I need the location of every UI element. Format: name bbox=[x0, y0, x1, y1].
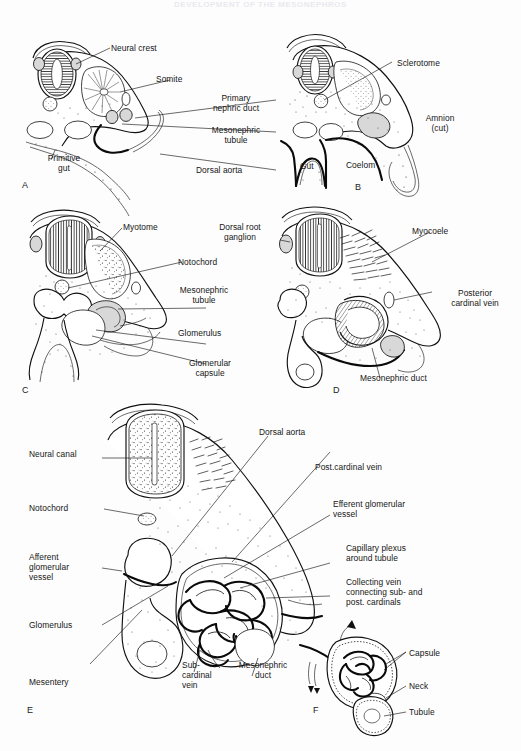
label-b-coelom: Coelom bbox=[346, 160, 375, 170]
panel-e-artwork bbox=[90, 404, 330, 678]
label-e-mesonephric-duct: Mesonephric duct bbox=[232, 660, 294, 680]
label-a-dorsal-aorta: Dorsal aorta bbox=[196, 165, 242, 175]
panel-letter-c: C bbox=[22, 385, 29, 395]
panel-letter-b: B bbox=[355, 182, 361, 192]
label-a-primitive-gut: Primitive gut bbox=[37, 153, 91, 173]
panel-letter-d: D bbox=[333, 385, 340, 395]
label-d-myocoele: Myocoele bbox=[412, 226, 448, 236]
label-e-post-cardinal-vein: Post.cardinal vein bbox=[315, 462, 382, 472]
label-c-notochord: Notochord bbox=[178, 257, 217, 267]
label-b-amnion-cut: Amnion (cut) bbox=[412, 113, 468, 133]
label-e-mesentery: Mesentery bbox=[29, 677, 69, 687]
label-f-capsule: Capsule bbox=[409, 648, 440, 658]
label-c-mesonephric-tubule: Mesonephric tubule bbox=[166, 285, 242, 305]
label-b-gut: Gut bbox=[300, 161, 314, 171]
label-d-dorsal-root-ganglion: Dorsal root ganglion bbox=[203, 222, 277, 242]
label-d-posterior-cardinal-vein: Posterior cardinal vein bbox=[436, 288, 514, 308]
figure-plate: DEVELOPMENT OF THE MESONEPHROS bbox=[0, 0, 521, 751]
panel-f-artwork bbox=[300, 620, 406, 736]
panel-letter-a: A bbox=[22, 180, 28, 190]
label-a-primary-nephric-duct: Primary nephric duct bbox=[196, 93, 276, 113]
label-e-glomerulus: Glomerulus bbox=[29, 620, 72, 630]
panel-letter-e: E bbox=[27, 705, 33, 715]
label-a-mesonephric-tubule: Mesonephric tubule bbox=[196, 125, 276, 145]
label-f-neck: Neck bbox=[409, 681, 428, 691]
label-d-mesonephric-duct: Mesonephric duct bbox=[360, 373, 427, 383]
label-e-efferent-glomerular-vessel: Efferent glomerular vessel bbox=[333, 499, 405, 519]
label-e-neural-canal: Neural canal bbox=[29, 449, 77, 459]
label-c-glomerular-capsule: Glomerular capsule bbox=[174, 358, 246, 378]
label-c-myotome: Myotome bbox=[123, 222, 158, 232]
label-f-tubule: Tubule bbox=[409, 707, 435, 717]
label-e-dorsal-aorta: Dorsal aorta bbox=[259, 427, 305, 437]
label-e-collecting-vein: Collecting vein connecting sub- and post… bbox=[346, 577, 422, 608]
label-a-somite: Somite bbox=[156, 74, 182, 84]
panel-letter-f: F bbox=[313, 705, 319, 715]
label-a-neural-crest: Neural crest bbox=[111, 43, 157, 53]
label-e-capillary-plexus: Capillary plexus around tubule bbox=[346, 543, 406, 563]
label-e-afferent-glomerular-vessel: Afferent glomerular vessel bbox=[29, 552, 69, 583]
label-b-sclerotome: Sclerotome bbox=[397, 58, 440, 68]
label-e-sub-cardinal-vein: Sub- cardinal vein bbox=[182, 660, 212, 691]
label-c-glomerulus: Glomerulus bbox=[178, 328, 221, 338]
label-e-notochord: Notochord bbox=[29, 503, 68, 513]
